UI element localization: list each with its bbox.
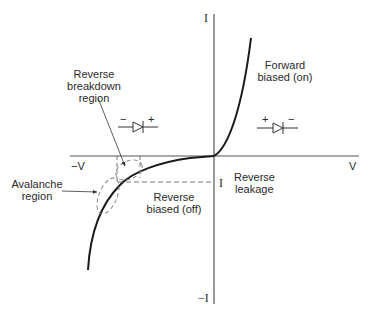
avalanche-region-label: Avalanche region xyxy=(11,178,62,202)
avalanche-pointer-arrow xyxy=(62,191,97,192)
forward-diode-plus: + xyxy=(262,113,268,125)
svg-text:Avalanche: Avalanche xyxy=(11,178,62,190)
svg-text:Reverse: Reverse xyxy=(74,68,115,80)
forward-diode-minus: − xyxy=(288,113,294,125)
forward-biased-label: Forward biased (on) xyxy=(257,59,312,83)
svg-text:biased (off): biased (off) xyxy=(147,203,202,215)
leakage-current-label: I xyxy=(219,176,223,190)
x-axis-positive-label: V xyxy=(349,160,357,172)
svg-text:region: region xyxy=(22,190,53,202)
reverse-leakage-label: Reverse leakage xyxy=(234,171,275,195)
diode-iv-diagram: I −I V −V I Reverse breakdown region Ava… xyxy=(0,0,369,316)
breakdown-region-label: Reverse breakdown region xyxy=(67,68,121,104)
svg-text:biased (on): biased (on) xyxy=(257,71,312,83)
y-axis-positive-label: I xyxy=(204,11,208,25)
reverse-diode-minus: − xyxy=(120,113,126,125)
svg-text:leakage: leakage xyxy=(235,183,274,195)
x-axis-negative-label: −V xyxy=(71,160,85,172)
svg-text:breakdown: breakdown xyxy=(67,80,121,92)
reverse-diode-plus: + xyxy=(148,113,154,125)
svg-text:region: region xyxy=(79,92,110,104)
forward-bias-curve xyxy=(214,38,251,156)
svg-text:Reverse: Reverse xyxy=(154,191,195,203)
reverse-biased-label: Reverse biased (off) xyxy=(147,191,202,215)
svg-text:Forward: Forward xyxy=(265,59,305,71)
svg-text:Reverse: Reverse xyxy=(234,171,275,183)
y-axis-negative-label: −I xyxy=(198,291,209,305)
avalanche-region-ellipse xyxy=(93,175,124,217)
